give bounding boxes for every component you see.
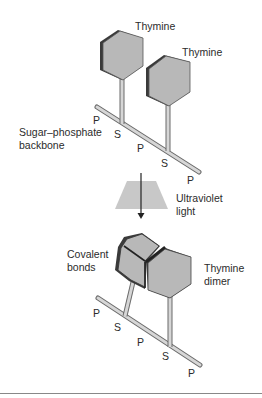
base-stem-2 — [166, 104, 171, 151]
thymine-hexagon-1 — [100, 30, 143, 80]
uv-transition: Ultraviolet light — [115, 173, 223, 219]
backbone-unit-sugar: S — [114, 321, 121, 333]
thymine-dimer-diagram: Thymine Thymine Sugar–phosphate backbone… — [0, 0, 262, 398]
backbone-unit-sugar: S — [161, 157, 168, 169]
backbone-label-line2: backbone — [19, 139, 65, 151]
backbone-unit-phosphate: P — [137, 142, 144, 154]
ultraviolet-label-line1: Ultraviolet — [176, 192, 223, 204]
ultraviolet-label-line2: light — [176, 205, 195, 217]
thymine-2-label: Thymine — [182, 46, 222, 58]
top-panel: Thymine Thymine Sugar–phosphate backbone… — [19, 20, 222, 186]
dimer-stem-2 — [168, 296, 173, 347]
backbone-unit-phosphate: P — [93, 307, 100, 319]
backbone-unit-sugar: S — [114, 128, 121, 140]
backbone-unit-phosphate: P — [93, 114, 100, 126]
sugar-phosphate-backbone-top — [97, 107, 199, 172]
backbone-unit-phosphate: P — [137, 336, 144, 348]
backbone-unit-phosphate: P — [188, 367, 195, 379]
dimer-stem-1 — [125, 282, 133, 316]
thymine-dimer — [115, 233, 191, 298]
base-stem-1 — [120, 78, 125, 124]
backbone-unit-sugar: S — [162, 350, 169, 362]
backbone-unit-phosphate: P — [187, 174, 194, 186]
thymine-1-label: Thymine — [135, 20, 175, 32]
bottom-panel: Covalent bonds Thymine dimer P S P S P — [67, 233, 244, 379]
thymine-dimer-label-line1: Thymine — [204, 262, 244, 274]
thymine-dimer-label-line2: dimer — [204, 275, 231, 287]
thymine-hexagon-2 — [146, 55, 190, 106]
covalent-bonds-label-line1: Covalent — [67, 248, 109, 260]
covalent-bonds-label-line2: bonds — [67, 261, 96, 273]
backbone-label-line1: Sugar–phosphate — [19, 126, 102, 138]
